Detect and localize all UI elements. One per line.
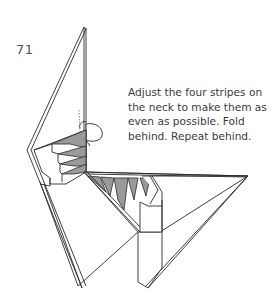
- origami-diagram-page: 71 Adjust the four stripes on the neck t…: [0, 0, 275, 307]
- origami-figure: [0, 0, 275, 307]
